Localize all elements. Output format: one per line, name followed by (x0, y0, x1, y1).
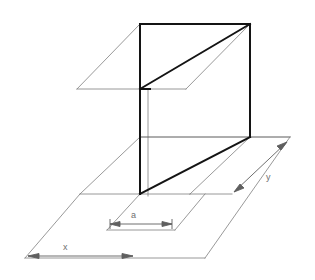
dim-a-arrow-right (162, 222, 172, 227)
bold-lines (140, 24, 250, 194)
dim-y-arrow-bottom (234, 184, 244, 192)
outer-ground-right-edge (205, 137, 290, 258)
dim-y-line (234, 142, 287, 192)
upper-plane-left-edge (77, 24, 140, 89)
dimension-label-y: y (266, 173, 271, 182)
dimension-label-x: x (63, 243, 68, 252)
dim-a-arrow-left (110, 222, 120, 227)
dim-y-arrow-top (277, 142, 287, 150)
outer-ground-left-edge (25, 194, 80, 258)
a-plane-right-edge (175, 194, 205, 230)
diagram-canvas: a x y (0, 0, 315, 280)
line-drawing (0, 0, 315, 280)
lower-bold-diagonal (140, 137, 250, 194)
upper-bold-diagonal (140, 24, 250, 89)
ground-plane-left-edge (80, 137, 140, 194)
dimension-label-a: a (131, 211, 136, 220)
